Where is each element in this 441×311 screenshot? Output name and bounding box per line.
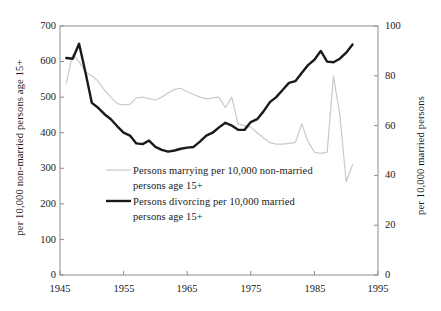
y-axis-left-ticks [60, 26, 64, 275]
series-line-persons-divorcing [66, 44, 352, 152]
chart-container: per 10,000 non-married persons age 15+ p… [0, 0, 441, 311]
plot-area [0, 0, 441, 311]
plot-frame [60, 26, 378, 275]
y-axis-right-ticks [374, 26, 378, 275]
x-axis-ticks [60, 271, 378, 275]
